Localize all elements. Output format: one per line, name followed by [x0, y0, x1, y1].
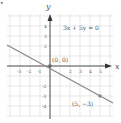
svg-text:-1: -1 — [37, 69, 42, 74]
y-axis-arrow-icon — [48, 14, 53, 21]
svg-text:3: 3 — [44, 34, 47, 39]
svg-text:-3: -3 — [42, 94, 47, 99]
point-label: (5, −3) — [72, 100, 93, 107]
svg-text:4: 4 — [89, 69, 92, 74]
x-axis-label: x — [115, 62, 120, 71]
svg-text:2: 2 — [44, 44, 47, 49]
svg-text:4: 4 — [44, 24, 47, 29]
y-axis-label: y — [45, 2, 51, 11]
x-axis-arrow-icon — [105, 64, 112, 69]
svg-text:5: 5 — [99, 69, 102, 74]
svg-text:2: 2 — [69, 69, 72, 74]
svg-text:-4: -4 — [42, 104, 47, 109]
svg-text:-2: -2 — [27, 69, 32, 74]
point-5-neg3 — [98, 94, 102, 98]
origin-label: (0, 0) — [52, 56, 68, 63]
graph: x y • -3-2-1 23 45 432 -2-3-4 3x + 5y = … — [0, 0, 121, 123]
point-origin — [48, 64, 52, 68]
svg-text:-3: -3 — [17, 69, 22, 74]
svg-text:3: 3 — [79, 69, 82, 74]
bullet: • — [0, 0, 4, 6]
equation-label: 3x + 5y = 0 — [63, 24, 99, 32]
svg-text:-2: -2 — [42, 84, 47, 89]
